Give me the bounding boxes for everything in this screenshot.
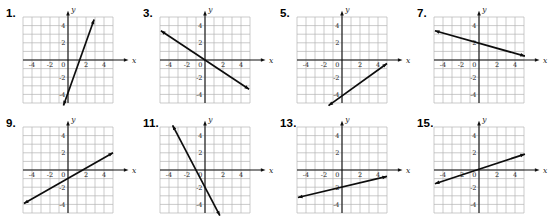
tick-label: -2 xyxy=(321,171,327,179)
tick-label: 4 xyxy=(61,132,65,140)
tick-label: 0 xyxy=(335,171,339,179)
axis-letter-label: x xyxy=(406,56,411,65)
tick-label: 2 xyxy=(335,149,339,157)
arrowhead-icon xyxy=(91,20,94,25)
problem-number: 1. xyxy=(6,7,16,19)
graph-cell-13: 13. yx0-4-22442-2-4 xyxy=(278,110,414,220)
arrowhead-icon xyxy=(398,168,403,172)
arrowhead-icon xyxy=(261,58,266,62)
tick-label: -2 xyxy=(59,74,65,82)
arrowhead-icon xyxy=(535,58,540,62)
axis-letter-label: x xyxy=(543,166,548,175)
tick-label: -2 xyxy=(196,74,202,82)
tick-label: 2 xyxy=(358,61,362,69)
axis-letter-label: x xyxy=(406,166,411,175)
arrowhead-icon xyxy=(66,11,70,16)
tick-label: 2 xyxy=(61,149,65,157)
tick-label: -4 xyxy=(440,61,446,69)
axis-letter-label: y xyxy=(344,5,350,14)
tick-label: 2 xyxy=(495,61,499,69)
coordinate-grid-plot: yx0-4-22442-2-4 xyxy=(293,114,411,220)
tick-label: 4 xyxy=(239,171,243,179)
graphed-line xyxy=(435,154,525,184)
coordinate-grid-plot: yx0-4-22442-2-4 xyxy=(293,4,411,110)
tick-label: -2 xyxy=(196,184,202,192)
arrowhead-icon xyxy=(203,11,207,16)
axis-letter-label: y xyxy=(481,115,487,124)
tick-label: 2 xyxy=(335,39,339,47)
arrowhead-icon xyxy=(535,168,540,172)
arrowhead-icon xyxy=(477,121,481,126)
tick-label: -4 xyxy=(29,61,35,69)
problem-number: 9. xyxy=(6,117,16,129)
arrowhead-icon xyxy=(124,58,129,62)
axis-letter-label: y xyxy=(70,115,76,124)
tick-label: 4 xyxy=(61,22,65,30)
tick-label: -4 xyxy=(166,171,172,179)
coordinate-grid-plot: yx0-4-22442-2-4 xyxy=(19,114,137,220)
problem-number: 5. xyxy=(280,7,290,19)
tick-label: -2 xyxy=(470,74,476,82)
arrowhead-icon xyxy=(124,168,129,172)
tick-label: 2 xyxy=(495,171,499,179)
graph-cell-5: 5. yx0-4-22442-2-4 xyxy=(278,0,414,110)
axis-letter-label: y xyxy=(207,115,213,124)
axis-letter-label: y xyxy=(344,115,350,124)
tick-label: -4 xyxy=(59,91,65,99)
tick-label: 0 xyxy=(335,61,339,69)
tick-label: -4 xyxy=(166,61,172,69)
axis-letter-label: x xyxy=(269,56,274,65)
tick-label: 2 xyxy=(198,39,202,47)
axis-letter-label: x xyxy=(543,56,548,65)
tick-label: 2 xyxy=(84,171,88,179)
tick-label: 4 xyxy=(198,22,202,30)
tick-label: -4 xyxy=(196,91,202,99)
graphed-line xyxy=(435,31,525,56)
coordinate-grid-plot: yx0-4-22442-2-4 xyxy=(156,4,274,110)
arrowhead-icon xyxy=(435,30,440,33)
tick-label: -4 xyxy=(333,201,339,209)
problem-number: 7. xyxy=(417,7,427,19)
tick-label: -2 xyxy=(321,61,327,69)
tick-label: -2 xyxy=(59,184,65,192)
coordinate-grid-plot: yx0-4-22442-2-4 xyxy=(430,4,548,110)
tick-label: -4 xyxy=(29,171,35,179)
tick-label: 4 xyxy=(472,22,476,30)
tick-label: 4 xyxy=(335,132,339,140)
axis-letter-label: y xyxy=(207,5,213,14)
tick-label: -4 xyxy=(470,201,476,209)
graph-cell-7: 7. yx0-4-22442-2-4 xyxy=(415,0,550,110)
problem-number: 3. xyxy=(143,7,153,19)
tick-label: 2 xyxy=(358,171,362,179)
tick-label: 2 xyxy=(61,39,65,47)
tick-label: 2 xyxy=(221,61,225,69)
tick-label: -2 xyxy=(47,61,53,69)
graph-cell-1: 1. yx0-4-22442-2-4 xyxy=(4,0,140,110)
graph-cell-15: 15. yx0-4-22442-2-4 xyxy=(415,110,550,220)
axis-letter-label: x xyxy=(132,56,137,65)
tick-label: 4 xyxy=(239,61,243,69)
arrowhead-icon xyxy=(435,181,440,184)
axis-letter-label: x xyxy=(132,166,137,175)
tick-label: -2 xyxy=(458,61,464,69)
tick-label: -4 xyxy=(440,171,446,179)
tick-label: 0 xyxy=(472,61,476,69)
tick-label: 4 xyxy=(513,61,517,69)
axis-letter-label: x xyxy=(269,166,274,175)
tick-label: 2 xyxy=(221,171,225,179)
tick-label: -2 xyxy=(184,171,190,179)
coordinate-grid-plot: yx0-4-22442-2-4 xyxy=(430,114,548,220)
tick-label: -4 xyxy=(303,171,309,179)
graph-cell-9: 9. yx0-4-22442-2-4 xyxy=(4,110,140,220)
axis-letter-label: y xyxy=(70,5,76,14)
tick-label: 4 xyxy=(335,22,339,30)
graph-cell-3: 3. yx0-4-22442-2-4 xyxy=(141,0,277,110)
tick-label: -2 xyxy=(184,61,190,69)
tick-label: 4 xyxy=(198,132,202,140)
arrowhead-icon xyxy=(261,168,266,172)
tick-label: 0 xyxy=(61,171,65,179)
arrowhead-icon xyxy=(340,11,344,16)
coordinate-grid-plot: yx0-4-22442-2-4 xyxy=(156,114,274,220)
arrowhead-icon xyxy=(398,58,403,62)
axis-letter-label: y xyxy=(481,5,487,14)
